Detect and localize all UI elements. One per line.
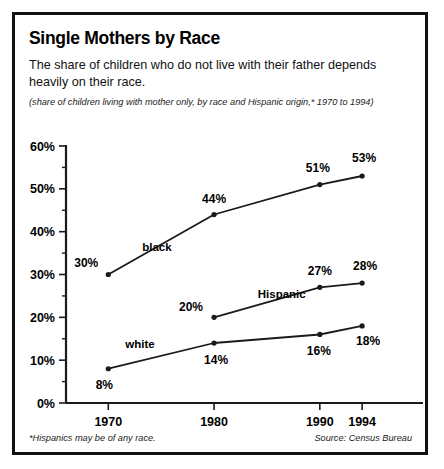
value-label-Hispanic: 20% [179,300,203,314]
value-label-black: 44% [202,192,226,206]
data-point-Hispanic [317,285,322,290]
y-axis-tick-label: 20% [30,311,55,325]
value-label-black: 30% [74,256,98,270]
y-axis-tick-label: 40% [30,225,55,239]
chart-inner: Single Mothers by Race The share of chil… [15,15,425,452]
x-axis-tick-label: 1980 [200,415,228,429]
x-axis-tick-labels: 1970198019901994 [94,415,376,429]
chart-series-labels: blackHispanicwhite [124,241,306,350]
y-axis-tick-label: 60% [30,140,55,154]
series-label-black: black [142,241,172,253]
data-point-black [211,212,216,217]
value-label-Hispanic: 28% [353,259,377,273]
data-point-black [360,173,365,178]
value-label-white: 16% [307,344,331,358]
data-point-black [106,272,111,277]
chart-source: Source: Census Bureau [314,433,412,443]
data-point-Hispanic [211,315,216,320]
chart-plot-area: 0%10%20%30%40%50%60% 1970198019901994 30… [15,15,431,458]
data-point-white [106,366,111,371]
x-axis-tick-label: 1990 [306,415,334,429]
y-axis-tick-label: 30% [30,268,55,282]
x-axis-tick-label: 1970 [94,415,122,429]
data-point-black [317,182,322,187]
chart-figure: Single Mothers by Race The share of chil… [12,12,428,455]
data-point-white [360,323,365,328]
series-label-Hispanic: Hispanic [258,288,307,300]
chart-axes [59,145,423,410]
value-label-white: 18% [356,334,380,348]
data-point-white [317,332,322,337]
y-axis-tick-label: 10% [30,354,55,368]
data-point-white [211,340,216,345]
value-label-white: 14% [204,353,228,367]
value-label-white: 8% [96,378,114,392]
series-label-white: white [124,338,154,350]
chart-footnote: *Hispanics may be of any race. [29,433,156,443]
series-line-black [108,176,362,275]
value-label-Hispanic: 27% [308,264,332,278]
y-axis-tick-label: 50% [30,182,55,196]
y-axis-tick-labels: 0%10%20%30%40%50%60% [30,140,55,411]
y-axis-tick-label: 0% [37,397,55,411]
value-label-black: 53% [352,151,376,165]
x-axis-tick-label: 1994 [348,415,376,429]
chart-value-labels: 30%44%51%53%20%27%28%8%14%16%18% [74,151,380,392]
data-point-Hispanic [360,280,365,285]
value-label-black: 51% [306,161,330,175]
